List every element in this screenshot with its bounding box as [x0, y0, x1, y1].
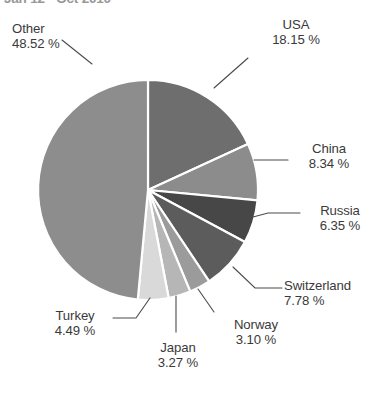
slice-label-japan-pct: 3.27 % — [142, 356, 214, 371]
leader-line-usa — [214, 58, 248, 88]
leader-line-russia — [253, 213, 300, 217]
slice-label-other-pct: 48.52 % — [12, 37, 60, 52]
slice-label-usa-pct: 18.15 % — [258, 33, 334, 48]
slice-label-russia-name: Russia — [304, 204, 376, 219]
slice-label-russia-pct: 6.35 % — [304, 219, 376, 234]
pie-slice-other[interactable] — [38, 80, 148, 300]
pie-slices — [38, 80, 258, 300]
slice-label-russia: Russia 6.35 % — [304, 204, 376, 234]
slice-label-other: Other 48.52 % — [12, 22, 60, 52]
slice-label-other-name: Other — [12, 22, 60, 37]
leader-line-other — [62, 40, 92, 64]
slice-label-turkey-name: Turkey — [38, 309, 112, 324]
slice-label-china-pct: 8.34 % — [292, 157, 366, 172]
slice-label-china: China 8.34 % — [292, 142, 366, 172]
slice-label-norway-pct: 3.10 % — [218, 333, 294, 348]
slice-label-usa: USA 18.15 % — [258, 18, 334, 48]
slice-label-japan-name: Japan — [142, 341, 214, 356]
slice-label-turkey-pct: 4.49 % — [38, 324, 112, 339]
slice-label-china-name: China — [292, 142, 366, 157]
slice-label-norway-name: Norway — [218, 318, 294, 333]
slice-label-switzerland: Switzerland 7.78 % — [284, 279, 351, 309]
slice-label-usa-name: USA — [258, 18, 334, 33]
slice-label-switzerland-name: Switzerland — [284, 279, 351, 294]
slice-label-japan: Japan 3.27 % — [142, 341, 214, 371]
slice-label-turkey: Turkey 4.49 % — [38, 309, 112, 339]
slice-label-switzerland-pct: 7.78 % — [284, 294, 351, 309]
pie-chart-figure: Jan 12 - Oct 2010 Other 48.52 % — [0, 0, 384, 396]
slice-label-norway: Norway 3.10 % — [218, 318, 294, 348]
leader-line-norway — [198, 289, 214, 312]
leader-line-switzerland — [233, 267, 282, 288]
